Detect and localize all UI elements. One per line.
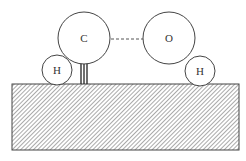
hydrogen-right-atom: H (185, 56, 215, 86)
adsorption-diagram: H C O H (0, 0, 246, 161)
surface (12, 84, 239, 150)
carbon-atom: C (58, 12, 110, 64)
oxygen-label: O (165, 32, 173, 44)
hydrogen-right-label: H (196, 65, 204, 77)
oxygen-atom: O (143, 12, 195, 64)
carbon-label: C (80, 32, 87, 44)
hydrogen-left-atom: H (42, 55, 72, 85)
hydrogen-left-label: H (53, 64, 61, 76)
surface-bond (81, 63, 87, 84)
